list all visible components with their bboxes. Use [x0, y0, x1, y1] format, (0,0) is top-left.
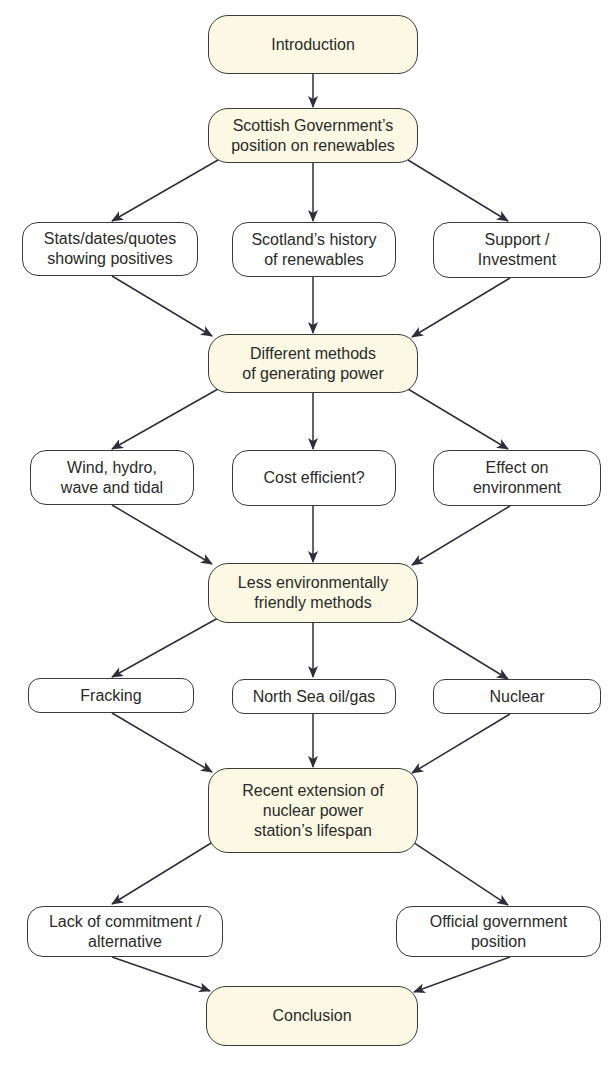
- node-introduction: Introduction: [208, 15, 418, 74]
- node-support: Support / Investment: [433, 222, 601, 278]
- node-gov-position: Scottish Government’s position on renewa…: [208, 108, 418, 163]
- arrow-effect-to-less: [412, 506, 510, 565]
- node-official-position: Official government position: [396, 906, 601, 957]
- node-cost: Cost efficient?: [232, 450, 396, 506]
- arrow-nuclear-to-extension: [412, 714, 510, 773]
- node-extension: Recent extension of nuclear power statio…: [208, 768, 418, 853]
- arrow-gov-to-support: [408, 160, 508, 221]
- arrow-gov-to-stats: [112, 160, 218, 221]
- arrow-less-to-nuclear: [408, 618, 508, 679]
- node-lack-commitment: Lack of commitment / alternative: [27, 906, 223, 957]
- arrow-less-to-fracking: [112, 618, 218, 677]
- arrow-extension-to-official: [410, 840, 508, 905]
- arrow-support-to-methods: [412, 278, 510, 337]
- node-less-friendly: Less environmentally friendly methods: [208, 563, 418, 623]
- node-fracking: Fracking: [28, 678, 194, 713]
- node-history: Scotland’s history of renewables: [232, 222, 396, 277]
- node-wind: Wind, hydro, wave and tidal: [30, 450, 194, 505]
- node-stats: Stats/dates/quotes showing positives: [22, 222, 198, 276]
- arrow-extension-to-lack: [112, 840, 216, 904]
- arrow-fracking-to-extension: [112, 713, 212, 772]
- node-north-sea: North Sea oil/gas: [232, 679, 396, 714]
- node-effect: Effect on environment: [433, 450, 601, 506]
- arrow-wind-to-less: [112, 505, 212, 564]
- arrow-stats-to-methods: [112, 276, 212, 336]
- arrow-methods-to-wind: [112, 389, 218, 449]
- arrow-methods-to-effect: [408, 389, 508, 449]
- node-conclusion: Conclusion: [206, 986, 418, 1046]
- arrow-lack-to-conclusion: [112, 957, 210, 991]
- node-nuclear: Nuclear: [433, 679, 601, 714]
- flowchart-canvas: Introduction Scottish Government’s posit…: [0, 0, 614, 1066]
- node-methods: Different methods of generating power: [208, 334, 418, 393]
- arrow-official-to-conclusion: [414, 957, 510, 992]
